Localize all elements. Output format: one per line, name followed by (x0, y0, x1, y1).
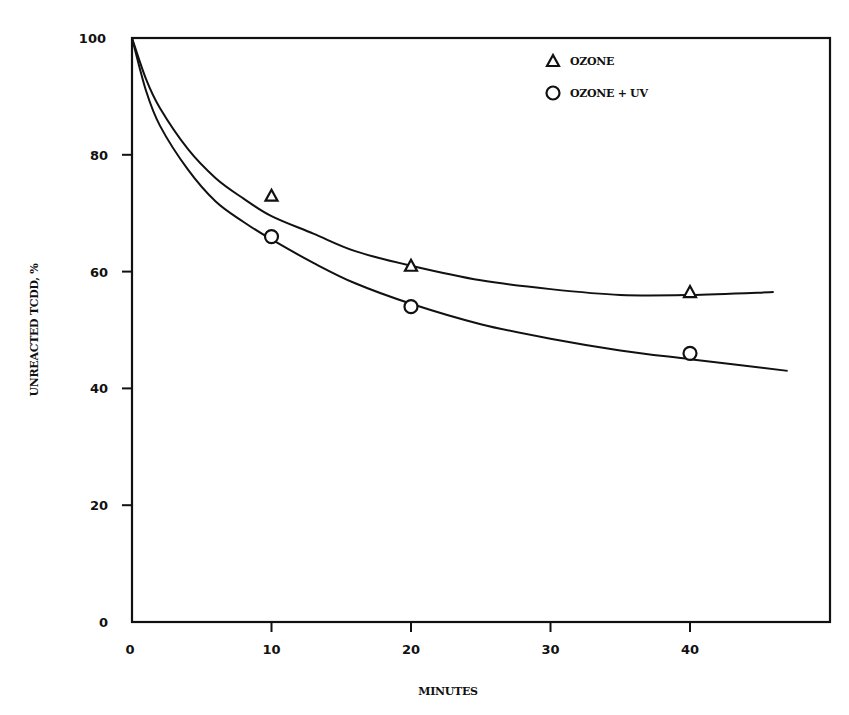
y-tick-label: 80 (90, 148, 108, 163)
legend-label: OZONE (570, 55, 614, 68)
y-tick-label: 0 (99, 615, 108, 630)
y-axis: 020406080100 (79, 31, 132, 630)
circle-icon (405, 300, 418, 313)
x-axis-title: MINUTES (418, 685, 478, 698)
x-tick-label: 40 (681, 642, 699, 657)
ozone-uv-fit-curve (132, 38, 788, 371)
legend-triangle-icon (547, 55, 559, 66)
data-points (265, 190, 697, 360)
x-tick-label: 10 (262, 642, 280, 657)
triangle-icon (405, 260, 417, 271)
circle-icon (265, 230, 278, 243)
plot-frame (132, 38, 830, 622)
x-tick-label: 30 (541, 642, 559, 657)
triangle-icon (266, 190, 278, 201)
y-tick-label: 40 (90, 381, 108, 396)
y-axis-title: UNREACTED TCDD, % (28, 263, 41, 397)
x-tick-label: 20 (402, 642, 420, 657)
legend: OZONEOZONE + UV (547, 55, 649, 100)
chart-canvas: 020406080100 010203040 OZONEOZONE + UV M… (0, 0, 849, 715)
triangle-icon (684, 286, 696, 297)
y-tick-label: 60 (90, 265, 108, 280)
x-axis: 010203040 (125, 622, 699, 657)
circle-icon (684, 347, 697, 360)
ozone-fit-curve (132, 38, 774, 296)
plot-border (132, 38, 830, 622)
y-tick-label: 20 (90, 498, 108, 513)
legend-label: OZONE + UV (570, 87, 648, 100)
x-tick-label: 0 (125, 642, 134, 657)
legend-circle-icon (547, 87, 560, 100)
fit-curves (132, 38, 788, 371)
y-tick-label: 100 (79, 31, 106, 46)
